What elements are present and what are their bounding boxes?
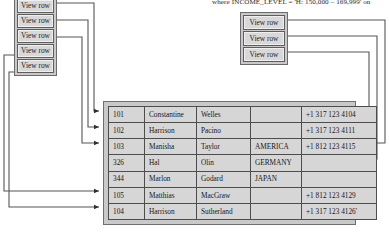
table-row[interactable]: 105 Matthias MacGraw +1 812 123 4129 bbox=[109, 187, 377, 203]
cell-country: AMERICA bbox=[251, 139, 302, 155]
cell-last-name: Pacino bbox=[197, 123, 251, 139]
cell-first-name: Harrison bbox=[145, 123, 197, 139]
view-row-button[interactable]: View row bbox=[243, 47, 285, 62]
view-row-button[interactable]: View row bbox=[243, 15, 285, 30]
cell-country bbox=[251, 123, 302, 139]
cell-id: 105 bbox=[109, 187, 145, 203]
cell-phone: +1 812 123 4129 bbox=[302, 187, 377, 203]
cell-first-name: Constantine bbox=[145, 107, 197, 123]
cell-phone bbox=[302, 171, 377, 187]
cell-last-name: Taylor bbox=[197, 139, 251, 155]
cell-first-name: Manisha bbox=[145, 139, 197, 155]
result-table-frame: 101 Constantine Welles +1 317 123 4104 1… bbox=[103, 101, 356, 225]
view-row-button[interactable]: View row bbox=[17, 59, 54, 73]
result-rows-table: 101 Constantine Welles +1 317 123 4104 1… bbox=[108, 106, 377, 220]
cell-id: 101 bbox=[109, 107, 145, 123]
cell-phone: +1 317 123 4111 bbox=[302, 123, 377, 139]
cell-country: JAPAN bbox=[251, 171, 302, 187]
table-row[interactable]: 102 Harrison Pacino +1 317 123 4111 bbox=[109, 123, 377, 139]
cell-id: 344 bbox=[109, 171, 145, 187]
cell-last-name: Olin bbox=[197, 155, 251, 171]
query-caption: where INCOME_LEVEL = 'H: 150,000 – 169,9… bbox=[212, 0, 370, 6]
cell-last-name: MacGraw bbox=[197, 187, 251, 203]
right-view-row-stack: View row View row View row bbox=[240, 12, 288, 65]
cell-last-name: Godard bbox=[197, 171, 251, 187]
cell-last-name: Welles bbox=[197, 107, 251, 123]
cell-country bbox=[251, 187, 302, 203]
cell-first-name: Harrison bbox=[145, 203, 197, 219]
cell-first-name: Hal bbox=[145, 155, 197, 171]
cell-last-name: Sutherland bbox=[197, 203, 251, 219]
cell-country: GERMANY bbox=[251, 155, 302, 171]
view-row-button[interactable]: View row bbox=[243, 31, 285, 46]
view-row-button[interactable]: View row bbox=[17, 29, 54, 43]
cell-id: 102 bbox=[109, 123, 145, 139]
table-row[interactable]: 103 Manisha Taylor AMERICA +1 812 123 41… bbox=[109, 139, 377, 155]
table-row[interactable]: 104 Harrison Sutherland +1 317 123 4126' bbox=[109, 203, 377, 219]
table-row[interactable]: 326 Hal Olin GERMANY bbox=[109, 155, 377, 171]
cell-country bbox=[251, 107, 302, 123]
diagram-canvas: where INCOME_LEVEL = 'H: 150,000 – 169,9… bbox=[0, 0, 389, 237]
cell-first-name: Matthias bbox=[145, 187, 197, 203]
cell-phone: +1 317 123 4104 bbox=[302, 107, 377, 123]
table-row[interactable]: 101 Constantine Welles +1 317 123 4104 bbox=[109, 107, 377, 123]
cell-phone: +1 812 123 4115 bbox=[302, 139, 377, 155]
cell-first-name: Marlon bbox=[145, 171, 197, 187]
cell-phone bbox=[302, 155, 377, 171]
cell-id: 104 bbox=[109, 203, 145, 219]
cell-phone: +1 317 123 4126' bbox=[302, 203, 377, 219]
view-row-button[interactable]: View row bbox=[17, 0, 54, 13]
table-row[interactable]: 344 Marlon Godard JAPAN bbox=[109, 171, 377, 187]
cell-country bbox=[251, 203, 302, 219]
view-row-button[interactable]: View row bbox=[17, 14, 54, 28]
view-row-button[interactable]: View row bbox=[17, 44, 54, 58]
cell-id: 103 bbox=[109, 139, 145, 155]
left-view-row-stack: View row View row View row View row View… bbox=[14, 0, 57, 76]
cell-id: 326 bbox=[109, 155, 145, 171]
